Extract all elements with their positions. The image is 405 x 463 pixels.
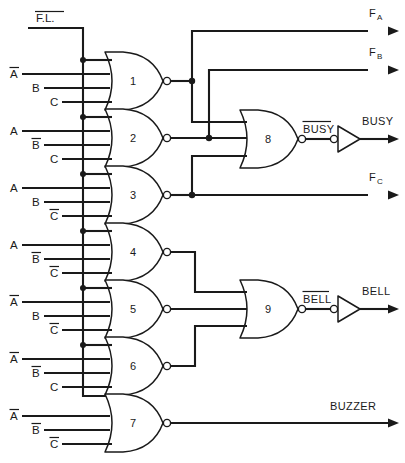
gate-5-number: 5 xyxy=(130,303,136,315)
net-gate4-output xyxy=(171,252,247,292)
bus-tap-5 xyxy=(80,285,86,291)
label-b-row3: B xyxy=(32,196,40,208)
intermediate-label-bell-bar: BELL xyxy=(303,292,332,306)
label-c-row7: C xyxy=(50,438,58,450)
gate-2: 2 xyxy=(22,109,171,167)
output-label-fc: F C xyxy=(369,171,383,186)
output-label-fb: F B xyxy=(369,46,382,61)
label-a-row5: A xyxy=(10,296,18,308)
busy-arrowhead xyxy=(388,135,399,144)
junction-gate1 xyxy=(189,78,195,84)
gate-1: 1 xyxy=(22,52,171,110)
intermediate-label-busy-bar: BUSY xyxy=(303,122,335,136)
gate-5: 5 xyxy=(22,280,171,338)
output-label-bell: BELL xyxy=(362,285,391,297)
junction-gate3 xyxy=(189,192,195,198)
bell-inverter-body xyxy=(338,296,360,322)
gate-3-output-bubble xyxy=(163,191,170,198)
fb-base: F xyxy=(369,46,376,58)
circuit-canvas: F.L. 1 A B C 2 A B C 3 xyxy=(0,0,405,463)
bell-bar-text: BELL xyxy=(303,293,332,305)
label-a-row1: A xyxy=(10,68,18,80)
gate-1-number: 1 xyxy=(130,75,136,87)
gate-9: 9 xyxy=(240,280,306,338)
label-b-row1: B xyxy=(32,82,40,94)
fa-subscript: A xyxy=(377,13,383,22)
bus-tap-1 xyxy=(80,57,86,63)
bus-tap-2 xyxy=(80,114,86,120)
gate-3: 3 xyxy=(22,166,171,224)
output-label-fa: F A xyxy=(369,7,383,22)
fb-arrowhead xyxy=(388,66,399,75)
bus-tap-6 xyxy=(80,342,86,348)
gate-3-number: 3 xyxy=(130,189,136,201)
gate-8-output-bubble xyxy=(298,135,305,142)
fc-base: F xyxy=(369,171,376,183)
buzzer-arrowhead xyxy=(388,419,399,428)
bell-arrowhead xyxy=(388,305,399,314)
label-a-row4: A xyxy=(10,239,18,251)
net-buzzer xyxy=(171,419,399,428)
label-b-row5: B xyxy=(32,310,40,322)
gate-5-output-bubble xyxy=(163,305,170,312)
gate-6-number: 6 xyxy=(130,360,136,372)
net-gate6-output xyxy=(171,326,247,366)
label-c-row5: C xyxy=(50,324,58,336)
gate-4-number: 4 xyxy=(130,246,136,258)
bus-tap-3 xyxy=(80,171,86,177)
bus-label: F.L. xyxy=(36,12,55,24)
busy-inverter-body xyxy=(338,126,360,152)
fa-base: F xyxy=(369,7,376,19)
gate-6: 6 xyxy=(22,337,171,395)
gate-1-output-bubble xyxy=(163,77,170,84)
label-c-row2: C xyxy=(50,153,58,165)
fc-arrowhead xyxy=(388,191,399,200)
gate-8-number: 8 xyxy=(265,133,271,145)
logic-circuit-diagram: F.L. 1 A B C 2 A B C 3 xyxy=(0,0,405,463)
gate-4-output-bubble xyxy=(163,248,170,255)
junction-gate2 xyxy=(206,135,212,141)
label-b-row2: B xyxy=(32,139,40,151)
output-label-buzzer: BUZZER xyxy=(330,400,376,412)
label-b-row4: B xyxy=(32,253,40,265)
label-c-row6: C xyxy=(50,381,58,393)
gate-6-output-bubble xyxy=(163,362,170,369)
gate-4: 4 xyxy=(22,223,171,281)
bell-inverter-input-bubble xyxy=(330,305,337,312)
label-b-row7: B xyxy=(32,424,40,436)
gate-7-output-bubble xyxy=(163,419,170,426)
gate-2-output-bubble xyxy=(163,134,170,141)
fa-arrowhead xyxy=(388,27,399,36)
label-c-row4: C xyxy=(50,267,58,279)
fb-subscript: B xyxy=(377,52,382,61)
gate-7-number: 7 xyxy=(130,417,136,429)
net-gate1-output xyxy=(171,31,368,122)
gate-9-output-bubble xyxy=(298,305,305,312)
busy-inverter-input-bubble xyxy=(330,135,337,142)
label-a-row6: A xyxy=(10,353,18,365)
busy-bar-text: BUSY xyxy=(303,123,335,135)
label-a-row2: A xyxy=(10,125,18,137)
gate-7: 7 xyxy=(22,394,171,452)
gate-2-number: 2 xyxy=(130,132,136,144)
gate-9-number: 9 xyxy=(265,303,271,315)
fc-subscript: C xyxy=(377,177,383,186)
label-c-row3: C xyxy=(50,210,58,222)
label-a-row7: A xyxy=(10,410,18,422)
output-label-busy: BUSY xyxy=(362,115,394,127)
gate-8: 8 xyxy=(240,110,306,168)
label-b-row6: B xyxy=(32,367,40,379)
bus-tap-4 xyxy=(80,228,86,234)
label-c-row1: C xyxy=(50,96,58,108)
label-a-row3: A xyxy=(10,182,18,194)
